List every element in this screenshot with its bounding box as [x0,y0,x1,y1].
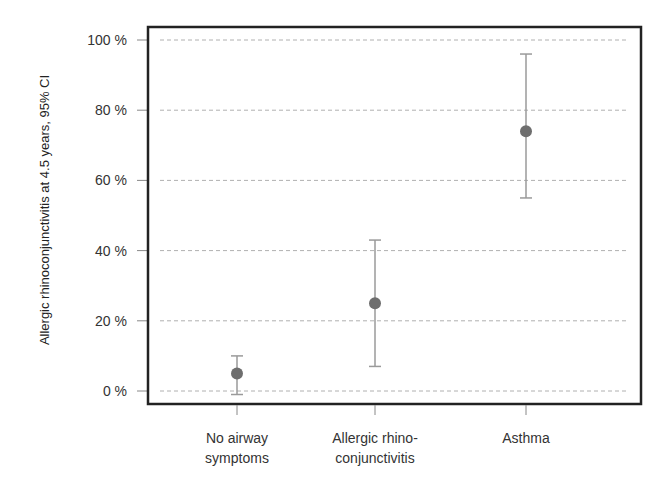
gridlines [160,40,626,391]
data-point [369,297,381,309]
y-axis-ticks: 0 %20 %40 %60 %80 %100 % [87,32,148,399]
y-tick-label: 80 % [95,102,127,118]
data-series [231,54,532,394]
x-tick-label: Allergic rhino- [332,430,418,446]
x-tick-label: Asthma [502,430,550,446]
data-point [520,125,532,137]
chart: 0 %20 %40 %60 %80 %100 % No airwaysympto… [0,0,667,494]
x-tick-label: symptoms [205,450,269,466]
plot-frame [148,27,641,404]
y-tick-label: 40 % [95,243,127,259]
data-point [231,367,243,379]
x-axis-ticks: No airwaysymptomsAllergic rhino-conjunct… [205,405,550,466]
y-tick-label: 100 % [87,32,127,48]
x-tick-label: conjunctivitis [335,450,414,466]
y-axis-label: Allergic rhinoconjunctivitis at 4.5 year… [37,75,52,345]
y-tick-label: 0 % [103,383,127,399]
y-tick-label: 20 % [95,313,127,329]
x-tick-label: No airway [206,430,268,446]
y-tick-label: 60 % [95,172,127,188]
